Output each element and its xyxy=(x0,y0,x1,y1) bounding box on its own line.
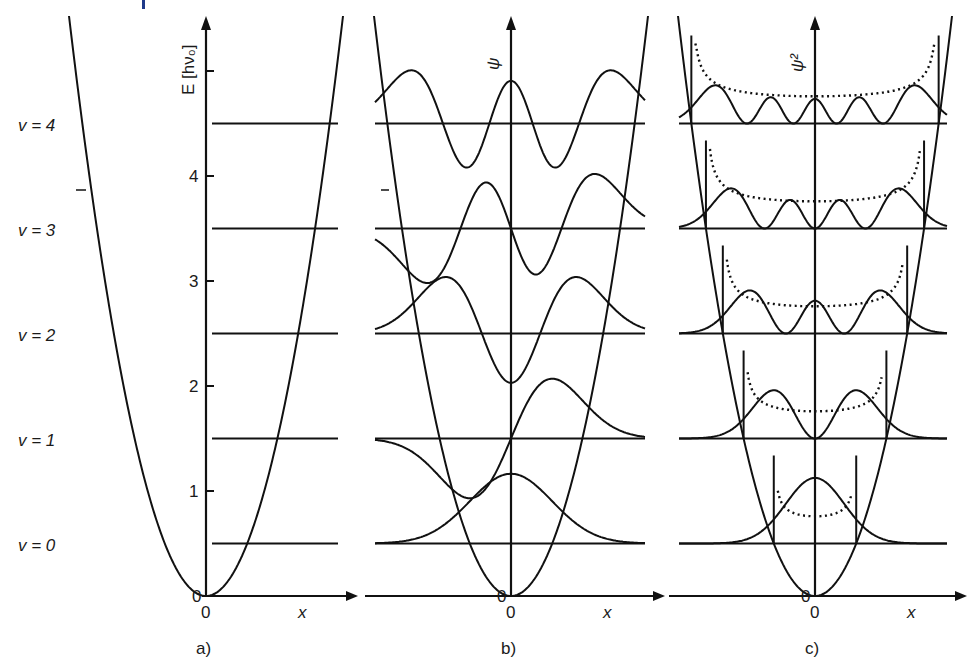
probability-density-3 xyxy=(679,188,947,228)
x-axis-label: x xyxy=(297,603,307,622)
panel-caption-b: b) xyxy=(501,639,516,658)
origin-label: 0 xyxy=(506,603,515,622)
level-label-v3: v = 3 xyxy=(18,221,56,240)
level-label-v4: v = 4 xyxy=(18,116,55,135)
panel-caption-a: a) xyxy=(196,639,211,658)
y-axis-arrow-icon xyxy=(201,16,211,30)
y-tick-label: 2 xyxy=(189,377,198,396)
wavefunction-axis-label: ψ xyxy=(484,58,503,70)
y-tick-label: 4 xyxy=(189,167,198,186)
probability-density-0 xyxy=(679,478,947,544)
y-axis-arrow-icon xyxy=(506,16,516,30)
x-axis-arrow-icon xyxy=(346,591,358,601)
panel-a xyxy=(69,16,358,601)
x-axis-label: x xyxy=(906,603,916,622)
y-tick-label: 1 xyxy=(189,482,198,501)
panel-caption-c: c) xyxy=(805,639,819,658)
panel-b xyxy=(365,16,665,601)
x-axis-label: x xyxy=(602,603,612,622)
probability-density-1 xyxy=(679,390,947,438)
probability-density-4 xyxy=(679,85,947,123)
wavefunction-axis-label: ψ² xyxy=(788,53,807,72)
x-axis-arrow-icon xyxy=(653,591,665,601)
level-label-v1: v = 1 xyxy=(18,431,55,450)
level-label-v2: v = 2 xyxy=(18,326,56,345)
oscillator-figure: 00xa)1234E [hν₀]v = 0v = 1v = 2v = 3v = … xyxy=(0,0,978,669)
energy-axis-label: E [hν₀] xyxy=(179,44,198,95)
y-axis-arrow-icon xyxy=(810,16,820,30)
level-label-v0: v = 0 xyxy=(18,536,56,555)
panel-c xyxy=(669,16,967,601)
y-tick-label: 3 xyxy=(189,272,198,291)
x-axis-arrow-icon xyxy=(955,591,967,601)
origin-label: 0 xyxy=(810,603,819,622)
origin-label: 0 xyxy=(201,603,210,622)
